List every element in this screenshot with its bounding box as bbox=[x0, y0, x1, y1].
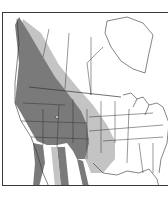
great-salt-lake bbox=[56, 116, 59, 119]
range-map bbox=[3, 13, 168, 186]
atlantic-coast bbox=[159, 107, 168, 173]
mexico-band-west bbox=[33, 143, 45, 186]
range-map-frame bbox=[2, 12, 168, 186]
hudson-bay bbox=[105, 17, 153, 73]
